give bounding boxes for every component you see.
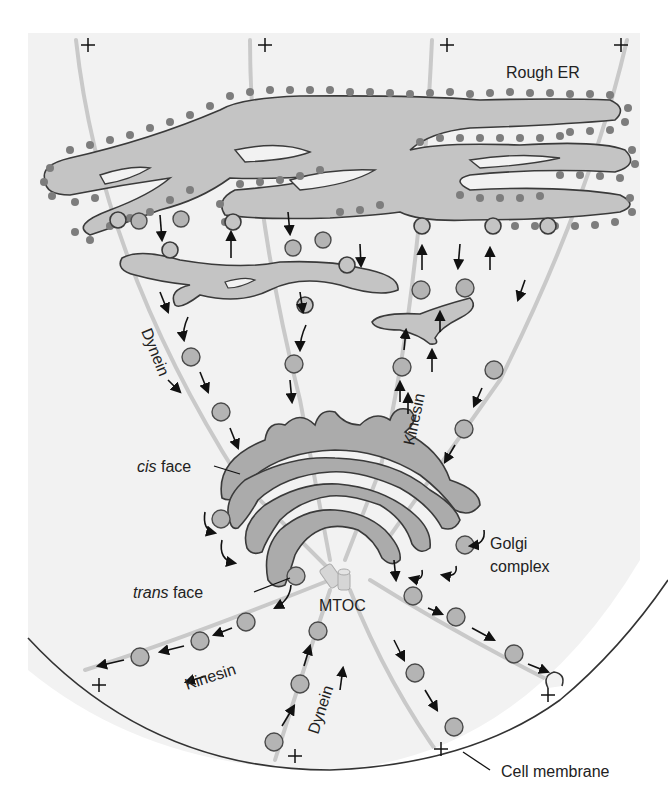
cell-membrane-label: Cell membrane (501, 763, 610, 780)
plus-icon (541, 688, 555, 702)
rough-er-label: Rough ER (506, 64, 580, 81)
diagram-canvas: Rough ER Dynein Kinesin cis face Golgi c… (0, 0, 668, 796)
trans-face-label: trans face (133, 584, 203, 601)
golgi-complex-label-line2: complex (490, 558, 550, 575)
cis-face-label: cis face (137, 458, 191, 475)
mtoc-label: MTOC (319, 597, 366, 614)
golgi-complex-label-line1: Golgi (490, 535, 527, 552)
